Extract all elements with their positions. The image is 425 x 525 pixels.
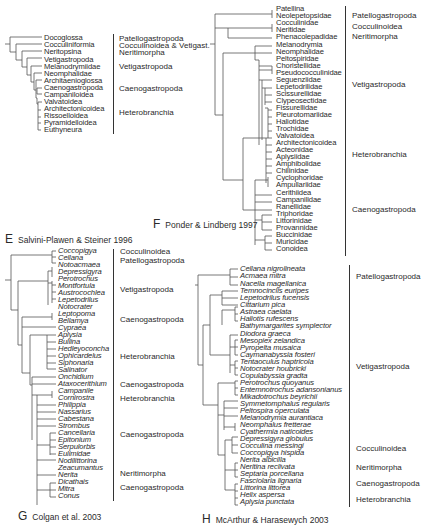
panel-citation: Colgan et al. 2003 (32, 512, 101, 522)
panel-caption: GColgan et al. 2003 (18, 509, 101, 523)
taxon-label: Conus (58, 492, 79, 500)
panel-e-salvini-plawen-steiner: Docoglossa Cocculiniformia Neritopsina V… (0, 0, 215, 235)
clade-label: Caenogastropoda (120, 315, 184, 324)
clade-label: Heterobranchia (356, 495, 411, 504)
clade-label: Heterobranchia (352, 150, 407, 159)
clade-label: Neritimorpha (119, 48, 165, 57)
panel-letter: G (18, 509, 27, 523)
clade-label: Neritimorpha (352, 32, 398, 41)
clade-label: Caenogastropoda (120, 380, 184, 389)
panel-h-mcarthur-harasewych: Cellana nigrolineata Acmaea mitra Nacell… (210, 255, 425, 525)
clade-label: Vetigastropoda (120, 285, 173, 294)
clade-bar (349, 265, 350, 507)
panel-citation: Ponder & Lindberg 1997 (165, 220, 257, 230)
taxon-label: Euthyneura (44, 126, 82, 134)
clade-label: Vetigastropoda (356, 362, 409, 371)
panel-letter: H (202, 512, 211, 525)
clade-label: Neritimorpha (356, 463, 402, 472)
panel-citation: Salvini-Plawen & Steiner 1996 (18, 235, 132, 245)
clade-label: Heterobranchia (119, 108, 174, 117)
clade-bar (113, 249, 114, 501)
clade-label: Caenogastropoda (120, 483, 184, 492)
clade-label: Caenogastropoda (356, 479, 420, 488)
clade-label: Neritimorpha (120, 469, 166, 478)
taxon-label: Aplysia punctata (240, 498, 294, 506)
panel-f-ponder-lindberg: Patellina Neolepetopsidae Cocculinidae N… (210, 0, 425, 260)
panel-letter: F (153, 217, 160, 231)
clade-label: Heterobranchia (120, 352, 175, 361)
clade-label: Cocculinoidea (120, 247, 170, 256)
clade-label: Patellogastropoda (352, 11, 417, 20)
clade-label: Caenogastropoda (120, 430, 184, 439)
clade-label: Caenogastropoda (352, 205, 416, 214)
panel-g-colgan: Coccopigya Cellana Notoacmaea Depressigy… (0, 245, 215, 525)
taxon-label: Conoidea (276, 245, 308, 253)
clade-label: Vetigastropoda (119, 62, 172, 71)
panel-caption: FPonder & Lindberg 1997 (153, 217, 258, 231)
panel-caption: HMcArthur & Harasewych 2003 (202, 512, 329, 525)
clade-bar (345, 6, 346, 256)
clade-bar (113, 34, 114, 134)
clade-label: Patellogastropoda (356, 272, 421, 281)
clade-label: Caenogastropoda (119, 84, 183, 93)
panel-citation: McArthur & Harasewych 2003 (216, 515, 329, 525)
clade-label: Patellogastropoda (120, 256, 185, 265)
phylogenetic-tree-e (0, 0, 215, 140)
clade-label: Cocculinoidea (356, 444, 406, 453)
clade-label: Cocculinoidea (352, 22, 402, 31)
panel-letter: E (5, 232, 13, 246)
clade-label: Heterobranchia (120, 394, 175, 403)
panel-caption: ESalvini-Plawen & Steiner 1996 (5, 232, 132, 246)
clade-label: Vetigastropoda (352, 80, 405, 89)
